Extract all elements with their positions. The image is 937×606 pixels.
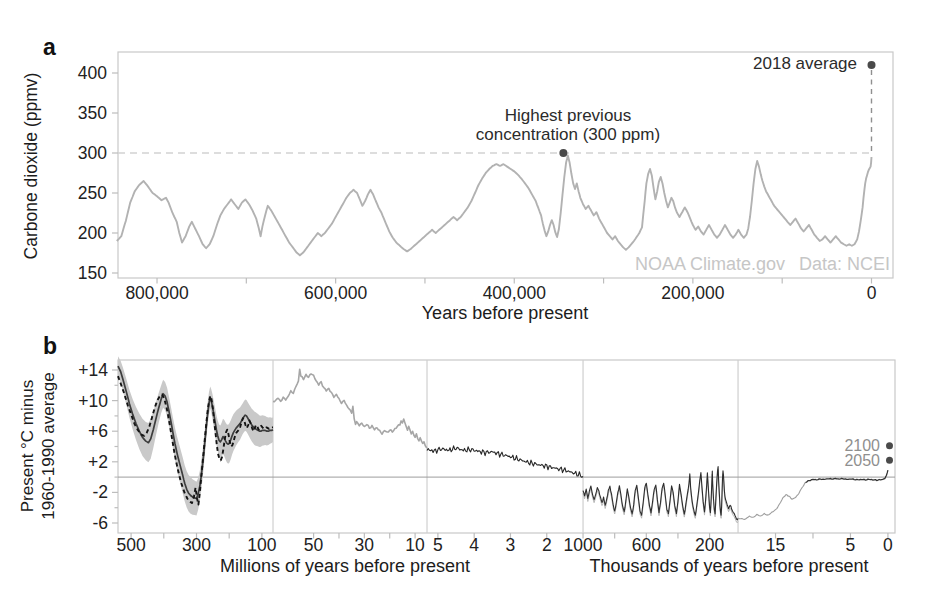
svg-text:1000: 1000	[564, 535, 603, 555]
svg-text:200,000: 200,000	[661, 283, 725, 303]
svg-text:+6: +6	[88, 421, 108, 441]
annotation-2018-average: 2018 average	[753, 54, 857, 74]
svg-text:600,000: 600,000	[304, 283, 368, 303]
panel-a-label: a	[43, 34, 56, 61]
svg-text:800,000: 800,000	[125, 283, 189, 303]
panel-b-x-axis-title-thousands: Thousands of years before present	[569, 556, 889, 577]
watermark: NOAA Climate.govData: NCEI	[635, 254, 890, 275]
svg-text:250: 250	[78, 183, 107, 203]
panel-b-y-axis-title: Present °C minus 1960-1990 average	[17, 341, 59, 551]
svg-text:30: 30	[355, 535, 375, 555]
svg-text:0: 0	[867, 283, 877, 303]
svg-text:2: 2	[542, 535, 552, 555]
svg-text:200: 200	[78, 223, 107, 243]
svg-text:50: 50	[304, 535, 324, 555]
svg-text:-2: -2	[92, 482, 108, 502]
watermark-ncei: Data: NCEI	[799, 254, 890, 274]
svg-text:500: 500	[116, 535, 145, 555]
annotation-highest-previous-line1: Highest previous	[408, 106, 728, 126]
panel-a-x-axis-title: Years before present	[345, 303, 665, 324]
svg-text:400,000: 400,000	[483, 283, 547, 303]
paleoclimate-figure: 800,000600,000400,000200,000040035030025…	[0, 0, 937, 606]
svg-text:350: 350	[78, 103, 107, 123]
svg-text:+2: +2	[88, 452, 108, 472]
svg-text:0: 0	[883, 535, 893, 555]
future-marker-label-2050: 2050	[844, 452, 880, 470]
svg-text:100: 100	[247, 535, 276, 555]
svg-text:5: 5	[433, 535, 443, 555]
svg-text:150: 150	[78, 263, 107, 283]
svg-text:10: 10	[405, 535, 425, 555]
svg-text:600: 600	[632, 535, 661, 555]
svg-text:+10: +10	[78, 391, 108, 411]
panel-b-y-title-line1: Present °C minus	[17, 341, 38, 551]
svg-text:300: 300	[182, 535, 211, 555]
svg-text:3: 3	[506, 535, 516, 555]
svg-text:300: 300	[78, 143, 107, 163]
panel-b-x-axis-title-millions: Millions of years before present	[185, 556, 505, 577]
svg-text:-6: -6	[92, 513, 108, 533]
panel-a-y-axis-title: Carbone dioxide (ppmv)	[21, 46, 43, 286]
svg-text:400: 400	[78, 63, 107, 83]
svg-text:+14: +14	[78, 360, 108, 380]
svg-text:15: 15	[766, 535, 785, 555]
watermark-noaa: NOAA Climate.gov	[635, 254, 785, 274]
panel-b-y-title-line2: 1960-1990 average	[38, 341, 59, 551]
svg-text:5: 5	[846, 535, 856, 555]
annotation-highest-previous-line2: concentration (300 ppm)	[408, 125, 728, 145]
svg-text:200: 200	[695, 535, 724, 555]
svg-text:4: 4	[469, 535, 479, 555]
